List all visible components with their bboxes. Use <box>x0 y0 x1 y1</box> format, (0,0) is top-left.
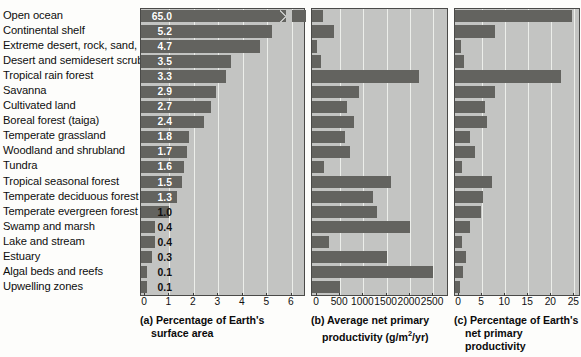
bar <box>455 131 470 143</box>
panel-b-caption: (b) Average net primary productivity (g/… <box>311 314 456 344</box>
bar-value-label: 3.5 <box>141 54 175 69</box>
bar <box>455 10 572 22</box>
chart-row: 0.1 <box>141 280 304 295</box>
chart-row: 2.9 <box>141 84 304 99</box>
bar-value-label: 1.0 <box>141 205 175 220</box>
biome-label: Lake and stream <box>0 234 140 249</box>
axis-tick-mark <box>291 293 292 296</box>
chart-row: 0.4 <box>141 220 304 235</box>
chart-row: 0.1 <box>141 265 304 280</box>
biome-label: Open ocean <box>0 8 140 23</box>
axis-tick-label: 6 <box>288 296 294 307</box>
bar <box>312 266 433 278</box>
chart-row: 1.7 <box>141 144 304 159</box>
chart-row <box>455 280 579 295</box>
axis-tick-label: 500 <box>331 296 348 307</box>
axis-tick-mark <box>266 293 267 296</box>
chart-row: 2.7 <box>141 99 304 114</box>
bar <box>455 281 460 293</box>
chart-row: 1.3 <box>141 190 304 205</box>
chart-row: 0.4 <box>141 235 304 250</box>
biome-label: Upwelling zones <box>0 279 140 294</box>
panel-b-bars <box>312 9 447 295</box>
bar <box>312 70 419 82</box>
biome-label: Cultivated land <box>0 98 140 113</box>
chart-row <box>455 175 579 190</box>
bar-value-label: 0.1 <box>141 280 175 295</box>
chart-row <box>455 250 579 265</box>
chart-row <box>312 250 447 265</box>
chart-row <box>455 99 579 114</box>
chart-row <box>312 69 447 84</box>
bar <box>312 86 359 98</box>
axis-tick-label: 2500 <box>421 296 444 307</box>
axis-tick-mark <box>504 293 505 296</box>
axis-tick-label: 20 <box>545 296 556 307</box>
bar-value-label: 0.4 <box>141 235 175 250</box>
axis-tick-mark <box>362 293 363 296</box>
panel-b-net-primary-productivity <box>311 8 448 296</box>
bar <box>312 191 373 203</box>
chart-row: 4.7 <box>141 39 304 54</box>
biome-label-column: Open oceanContinental shelfExtreme deser… <box>0 8 140 296</box>
bar <box>312 236 329 248</box>
panel-b-axis: 05001000150020002500 <box>311 296 448 310</box>
bar-value-label: 1.8 <box>141 129 175 144</box>
chart-row: 1.8 <box>141 129 304 144</box>
bar <box>312 116 354 128</box>
biome-label: Swamp and marsh <box>0 219 140 234</box>
chart-row <box>455 114 579 129</box>
chart-row <box>455 39 579 54</box>
biome-label: Savanna <box>0 83 140 98</box>
panel-c-caption-line1: (c) Percentage of Earth's <box>454 314 578 326</box>
biome-label: Estuary <box>0 249 140 264</box>
chart-row: 3.5 <box>141 54 304 69</box>
chart-row <box>455 84 579 99</box>
biome-productivity-figure: Open oceanContinental shelfExtreme deser… <box>0 0 581 357</box>
panel-a-surface-area: 65.05.24.73.53.32.92.72.41.81.71.61.51.3… <box>140 8 305 296</box>
chart-row <box>455 159 579 174</box>
axis-tick-label: 5 <box>263 296 269 307</box>
panel-b-caption-line2: productivity (g/m2/yr) <box>311 327 456 344</box>
axis-tick-label: 25 <box>568 296 579 307</box>
chart-row <box>312 190 447 205</box>
chart-row: 1.6 <box>141 159 304 174</box>
bar <box>312 281 340 293</box>
axis-tick-mark <box>242 293 243 296</box>
chart-row <box>312 235 447 250</box>
axis-tick-mark <box>168 293 169 296</box>
chart-row: 1.0 <box>141 205 304 220</box>
panel-a-caption: (a) Percentage of Earth's surface area <box>140 314 308 340</box>
bar-value-label: 2.4 <box>141 114 175 129</box>
biome-label: Desert and semidesert scrub <box>0 53 140 68</box>
biome-label: Extreme desert, rock, sand, ice <box>0 38 140 53</box>
chart-row <box>455 235 579 250</box>
axis-tick-label: 5 <box>478 296 484 307</box>
axis-tick-label: 0 <box>455 296 461 307</box>
panel-c-caption-line2: net primary productivity <box>454 327 581 353</box>
chart-row <box>312 265 447 280</box>
bar <box>312 131 345 143</box>
axis-tick-label: 15 <box>522 296 533 307</box>
axis-tick-mark <box>432 293 433 296</box>
axis-tick-label: 0 <box>313 296 319 307</box>
biome-label: Temperate deciduous forest <box>0 189 140 204</box>
bar-value-label: 0.3 <box>141 250 175 265</box>
biome-label: Algal beds and reefs <box>0 264 140 279</box>
chart-row <box>312 144 447 159</box>
chart-row <box>312 175 447 190</box>
bar-value-label: 0.1 <box>141 265 175 280</box>
biome-label: Tundra <box>0 158 140 173</box>
axis-tick-mark <box>386 293 387 296</box>
axis-tick-label: 4 <box>239 296 245 307</box>
bar <box>455 70 561 82</box>
panel-c-axis: 0510152025 <box>454 296 580 310</box>
chart-row: 0.3 <box>141 250 304 265</box>
bar-value-label: 1.3 <box>141 190 175 205</box>
bar <box>312 251 387 263</box>
panel-a-axis: 0123456 <box>140 296 305 310</box>
chart-row <box>312 159 447 174</box>
axis-tick-mark <box>573 293 574 296</box>
axis-tick-mark <box>217 293 218 296</box>
biome-label: Woodland and shrubland <box>0 143 140 158</box>
